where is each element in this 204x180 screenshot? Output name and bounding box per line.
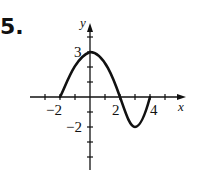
y-axis-label: y — [78, 15, 86, 30]
y-tick-label-3: 3 — [74, 44, 82, 60]
function-graph: −2 2 4 3 −2 x y — [0, 0, 204, 180]
x-tick-label-4: 4 — [150, 102, 158, 118]
x-axis-label: x — [177, 99, 184, 114]
y-axis-arrow-icon — [87, 23, 93, 32]
y-tick-label-neg2: −2 — [66, 119, 82, 135]
x-tick-label-neg2: −2 — [46, 102, 62, 118]
function-curve — [60, 52, 150, 127]
x-tick-label-2: 2 — [112, 102, 120, 118]
